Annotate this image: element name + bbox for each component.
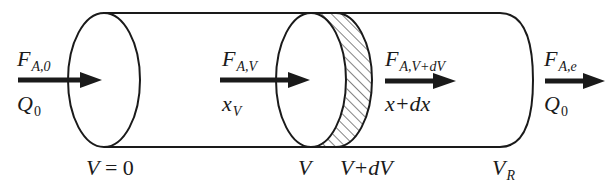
outlet-rate-label: Q0: [544, 93, 568, 115]
element-out-flow-symbol: F: [385, 46, 398, 71]
element-in-conv-symbol: x: [222, 91, 232, 116]
element-out-flow-subscript: A,V+dV: [399, 59, 445, 74]
pfr-diagram: FA,0 Q0 V = 0 FA,V xV V FA,V+dV x+dx V+d…: [0, 0, 616, 190]
element-out-position-label: V+dV: [340, 157, 393, 179]
outlet-position-subscript: R: [506, 168, 515, 183]
inlet-flow-label: FA,0: [17, 48, 51, 70]
inlet-position-label: V = 0: [86, 157, 134, 179]
outlet-flow-label: FA,e: [544, 48, 577, 70]
element-in-flow-label: FA,V: [222, 48, 257, 70]
inlet-position-value: = 0: [99, 155, 133, 180]
inlet-rate-symbol: Q: [17, 91, 33, 116]
element-in-conversion-label: xV: [222, 93, 241, 115]
element-in-conv-subscript: V: [233, 104, 242, 119]
outlet-rate-subscript: 0: [561, 104, 568, 119]
outlet-arrow: [545, 73, 605, 89]
element-in-position-label: V: [298, 157, 311, 179]
element-in-flow-symbol: F: [222, 46, 235, 71]
inlet-rate-subscript: 0: [34, 104, 41, 119]
inlet-flow-subscript: A,0: [31, 59, 50, 74]
element-out-flow-label: FA,V+dV: [385, 48, 445, 70]
inlet-flow-symbol: F: [17, 46, 30, 71]
outlet-position-label: VR: [492, 157, 515, 179]
element-in-flow-subscript: A,V: [236, 59, 257, 74]
outlet-flow-symbol: F: [544, 46, 557, 71]
outlet-end-cap: [500, 13, 533, 147]
inlet-rate-label: Q0: [17, 93, 41, 115]
outlet-flow-subscript: A,e: [558, 59, 576, 74]
inlet-position-symbol: V: [86, 155, 99, 180]
outlet-position-symbol: V: [492, 155, 505, 180]
element-out-conversion-label: x+dx: [385, 93, 430, 115]
element-out-arrow: [385, 73, 456, 89]
outlet-rate-symbol: Q: [544, 91, 560, 116]
